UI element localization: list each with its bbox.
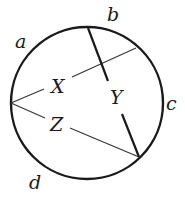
arc-label-b: b [107,3,119,25]
segment-z-part1 [11,103,45,118]
segment-label-y: Y [110,86,125,108]
segment-label-z: Z [49,113,64,135]
segment-label-x: X [49,75,66,97]
segment-x-part1 [11,89,44,103]
circle-outline [11,27,163,179]
circle-diagram: a b c d X Y Z [0,0,185,198]
arc-label-a: a [15,30,26,52]
arc-label-d: d [29,171,41,193]
segment-y-part1 [88,28,108,81]
arc-label-c: c [166,92,177,114]
